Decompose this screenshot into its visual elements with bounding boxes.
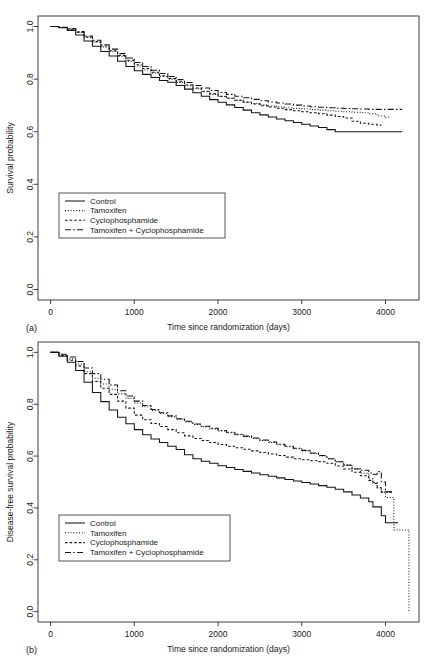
x-tick-label: 1000: [125, 307, 144, 317]
curve-tamoxifen-cyclophosphamide: [51, 352, 394, 491]
curve-tamoxifen: [51, 352, 409, 611]
legend-label-1: Control: [90, 197, 116, 206]
y-tick-label: 0.0: [25, 605, 35, 617]
legend-label-3: Cyclophosphamide: [90, 538, 159, 547]
y-tick-label: 0.6: [25, 126, 35, 138]
x-tick-label: 1000: [125, 629, 144, 639]
curve-tamoxifen: [51, 27, 390, 118]
y-tick-label: 0.6: [25, 450, 35, 462]
legend-label-4: Tamoxifen + Cyclophosphamide: [90, 548, 204, 557]
y-tick-label: 0.2: [25, 231, 35, 243]
y-tick-label: 0.8: [25, 398, 35, 410]
y-axis-title: Disease-free survival probability: [5, 421, 15, 542]
y-tick-label: 0.2: [25, 554, 35, 566]
legend-label-2: Tamoxifen: [90, 529, 126, 538]
curve-control: [51, 352, 399, 522]
x-axis-title: Time since randomization (days): [167, 644, 290, 654]
panel-a: 010002000300040000.00.20.40.60.81.0Time …: [0, 0, 428, 334]
x-tick-label: 3000: [292, 307, 311, 317]
x-tick-label: 0: [48, 629, 53, 639]
y-tick-label: 1.0: [25, 346, 35, 358]
y-tick-label: 0.4: [25, 502, 35, 514]
curve-cyclophosphamide: [51, 27, 382, 126]
y-tick-label: 0.0: [25, 283, 35, 295]
x-tick-label: 3000: [292, 629, 311, 639]
legend-label-4: Tamoxifen + Cyclophosphamide: [90, 226, 204, 235]
curve-cyclophosphamide: [51, 352, 394, 491]
y-tick-label: 0.8: [25, 73, 35, 85]
legend-label-2: Tamoxifen: [90, 206, 126, 215]
legend-label-3: Cyclophosphamide: [90, 216, 159, 225]
x-tick-label: 2000: [209, 629, 228, 639]
x-tick-label: 2000: [209, 307, 228, 317]
legend-label-1: Control: [90, 519, 116, 528]
y-axis-title: Survival probability: [5, 122, 15, 194]
curve-control: [51, 27, 403, 132]
panel-b: 010002000300040000.00.20.40.60.81.0Time …: [0, 330, 428, 667]
y-tick-label: 0.4: [25, 178, 35, 190]
x-tick-label: 0: [48, 307, 53, 317]
panel-label: (b): [26, 645, 37, 655]
x-tick-label: 4000: [376, 307, 395, 317]
x-tick-label: 4000: [376, 629, 395, 639]
figure-container: 010002000300040000.00.20.40.60.81.0Time …: [0, 0, 428, 667]
y-tick-label: 1.0: [25, 20, 35, 32]
